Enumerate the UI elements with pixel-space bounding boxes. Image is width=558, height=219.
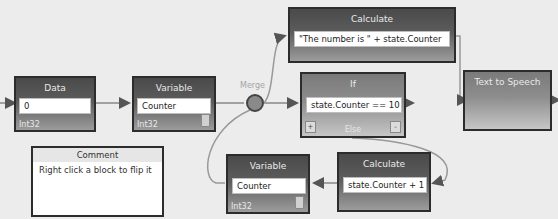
calculate-block-top[interactable]: Calculate "The number is " + state.Count…	[288, 7, 456, 63]
calculate-block-title: Calculate	[339, 158, 429, 170]
variable-block-bottom[interactable]: Variable Counter Int32	[226, 154, 310, 214]
variable-storage-icon[interactable]	[295, 196, 304, 209]
variable-block-title: Variable	[134, 82, 214, 94]
data-type-label: Int32	[19, 120, 40, 129]
if-condition-field[interactable]: state.Counter == 10	[306, 97, 402, 113]
if-block[interactable]: If state.Counter == 10 + - Else	[300, 72, 406, 138]
text-to-speech-title: Text to Speech	[465, 76, 550, 88]
merge-node[interactable]	[246, 94, 264, 112]
calculate-block-bottom[interactable]: Calculate state.Counter + 1	[337, 152, 431, 212]
merge-label: Merge	[240, 81, 265, 90]
data-block[interactable]: Data 0 Int32	[14, 76, 96, 132]
diagram-canvas[interactable]: Data 0 Int32 Variable Counter Int32 Merg…	[0, 0, 558, 219]
calculate-block-title: Calculate	[290, 13, 454, 25]
comment-title: Comment	[33, 148, 162, 162]
variable-name-field[interactable]: Counter	[232, 178, 306, 194]
variable-storage-icon[interactable]	[201, 114, 210, 127]
variable-block-title: Variable	[228, 160, 308, 172]
variable-block-top[interactable]: Variable Counter Int32	[132, 76, 216, 132]
variable-name-field[interactable]: Counter	[137, 98, 211, 114]
data-block-title: Data	[16, 82, 94, 94]
text-to-speech-block[interactable]: Text to Speech	[463, 70, 552, 131]
if-block-title: If	[302, 78, 404, 90]
calculate-expression-field[interactable]: state.Counter + 1	[343, 177, 427, 193]
calculate-expression-field[interactable]: "The number is " + state.Counter	[294, 31, 450, 47]
variable-type-label: Int32	[137, 120, 158, 129]
data-value-field[interactable]: 0	[19, 98, 91, 114]
comment-block[interactable]: Comment Right click a block to flip it	[31, 146, 164, 217]
variable-type-label: Int32	[231, 202, 252, 211]
comment-text[interactable]: Right click a block to flip it	[33, 162, 162, 178]
if-else-label: Else	[302, 125, 404, 134]
